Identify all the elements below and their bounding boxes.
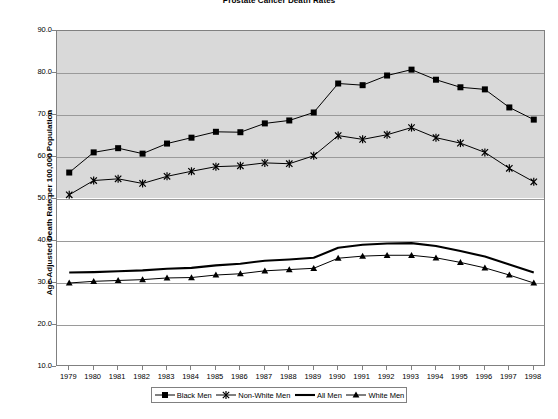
x-axis-tick-mark: [215, 366, 216, 370]
y-axis-tick-label: 50.0: [12, 194, 52, 202]
x-axis-tick-label: 1998: [513, 372, 553, 381]
data-point-square: [66, 170, 72, 176]
data-point-square: [140, 151, 146, 157]
legend-none-icon: [294, 390, 316, 400]
legend-x-icon: [215, 390, 237, 400]
legend-label: All Men: [317, 391, 342, 400]
x-axis-tick-mark: [239, 366, 240, 370]
x-axis-tick-mark: [508, 366, 509, 370]
series-line: [69, 243, 534, 272]
data-point-x: [311, 152, 317, 160]
x-axis-tick-mark: [117, 366, 118, 370]
data-point-square: [237, 129, 243, 135]
x-axis-tick-mark: [93, 366, 94, 370]
data-point-square: [384, 73, 390, 79]
y-axis-tick-label: 70.0: [12, 110, 52, 118]
data-point-square: [335, 81, 341, 87]
x-axis-tick-mark: [264, 366, 265, 370]
data-point-square: [409, 67, 415, 73]
legend-label: Non-White Men: [238, 391, 290, 400]
data-point-square: [162, 392, 168, 398]
series-svg: [57, 31, 545, 366]
x-axis-tick-mark: [459, 366, 460, 370]
data-point-x: [506, 164, 512, 172]
x-axis-tick-mark: [142, 366, 143, 370]
x-axis-tick-mark: [484, 366, 485, 370]
data-point-x: [482, 148, 488, 156]
data-point-square: [506, 104, 512, 110]
data-point-square: [482, 86, 488, 92]
plot-series-layer: [57, 31, 544, 365]
x-axis-tick-mark: [288, 366, 289, 370]
chart-legend: Black MenNon-White MenAll MenWhite Men: [151, 387, 407, 403]
data-point-x: [66, 191, 72, 199]
series-line: [69, 70, 534, 173]
x-axis-tick-mark: [190, 366, 191, 370]
x-axis-tick-mark: [166, 366, 167, 370]
legend-item-all-men[interactable]: All Men: [294, 390, 342, 400]
data-point-triangle: [310, 265, 317, 271]
series-line: [69, 128, 534, 195]
y-axis-tick-label: 40.0: [12, 236, 52, 244]
x-axis-tick-mark: [533, 366, 534, 370]
legend-label: Black Men: [177, 391, 212, 400]
data-point-square: [457, 84, 463, 90]
legend-item-white-men[interactable]: White Men: [345, 390, 404, 400]
x-axis-tick-mark: [435, 366, 436, 370]
data-point-square: [531, 117, 537, 123]
data-point-square: [311, 109, 317, 115]
y-axis-ticks: 90.080.070.060.050.040.030.020.010.0: [8, 30, 52, 366]
data-point-square: [262, 120, 268, 126]
y-axis-tick-label: 90.0: [12, 26, 52, 34]
y-axis-tick-label: 30.0: [12, 278, 52, 286]
data-point-square: [188, 135, 194, 141]
y-axis-tick-label: 10.0: [12, 362, 52, 370]
series-non-white-men: [66, 124, 537, 199]
data-point-square: [360, 82, 366, 88]
legend-item-non-white-men[interactable]: Non-White Men: [215, 390, 290, 400]
x-axis-tick-mark: [386, 366, 387, 370]
legend-item-black-men[interactable]: Black Men: [154, 390, 212, 400]
x-axis-tick-mark: [337, 366, 338, 370]
data-point-square: [213, 129, 219, 135]
x-axis-tick-mark: [313, 366, 314, 370]
data-point-x: [531, 178, 537, 186]
chart-title: Prostate Cancer Death Rates: [0, 0, 558, 5]
legend-label: White Men: [368, 391, 404, 400]
data-point-square: [91, 149, 97, 155]
data-point-x: [408, 124, 414, 132]
x-axis-tick-mark: [362, 366, 363, 370]
series-all-men: [69, 243, 534, 272]
y-axis-tick-label: 60.0: [12, 152, 52, 160]
chart-container: Prostate Cancer Death Rates Age-Adjusted…: [0, 0, 558, 419]
plot-area: [56, 30, 545, 366]
legend-triangle-icon: [345, 390, 367, 400]
x-axis-tick-mark: [68, 366, 69, 370]
data-point-square: [286, 117, 292, 123]
data-point-square: [164, 141, 170, 147]
y-axis-tick-label: 80.0: [12, 68, 52, 76]
data-point-square: [433, 77, 439, 83]
x-axis-tick-mark: [411, 366, 412, 370]
legend-square-icon: [154, 390, 176, 400]
y-axis-tick-label: 20.0: [12, 320, 52, 328]
series-white-men: [66, 252, 537, 286]
data-point-square: [115, 145, 121, 151]
